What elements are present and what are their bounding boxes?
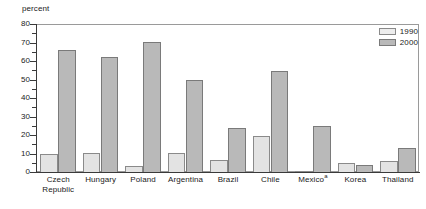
legend-label-2000: 2000 xyxy=(400,39,418,47)
bar-2000 xyxy=(58,50,76,172)
y-tick-label: 30 xyxy=(2,113,30,121)
x-axis-label: Hungary xyxy=(79,175,121,185)
y-axis-ticks: 01020304050607080 xyxy=(0,0,30,209)
bar-chart: percent 01020304050607080 CzechRepublicH… xyxy=(0,0,426,209)
bar-2000 xyxy=(186,80,204,172)
y-tick-label: 10 xyxy=(2,150,30,158)
x-axis-label: Poland xyxy=(122,175,164,185)
y-tick-major xyxy=(30,24,36,25)
bar-1990 xyxy=(210,160,228,172)
y-tick-major xyxy=(30,135,36,136)
x-axis-label: Argentina xyxy=(164,175,206,185)
bar-1990 xyxy=(295,171,313,172)
y-tick-minor xyxy=(32,52,36,53)
bar-2000 xyxy=(271,71,289,172)
bar-1990 xyxy=(83,153,101,172)
bar-2000 xyxy=(398,148,416,172)
bar-2000 xyxy=(356,165,374,172)
y-tick-minor xyxy=(32,126,36,127)
bar-group xyxy=(334,24,376,172)
bar-group xyxy=(164,24,206,172)
bar-1990 xyxy=(338,163,356,172)
light-gray-swatch-icon xyxy=(379,28,396,35)
y-tick-label: 0 xyxy=(2,168,30,176)
y-tick-minor xyxy=(32,70,36,71)
bar-2000 xyxy=(101,57,119,172)
bar-group xyxy=(292,24,334,172)
x-axis-label: Brazil xyxy=(207,175,249,185)
bar-group xyxy=(37,24,79,172)
y-tick-label: 70 xyxy=(2,39,30,47)
footnote-marker: a xyxy=(324,173,327,179)
bar-2000 xyxy=(313,126,331,172)
y-tick-label: 80 xyxy=(2,20,30,28)
bar-1990 xyxy=(168,153,186,172)
bar-2000 xyxy=(228,128,246,172)
bar-group xyxy=(207,24,249,172)
bar-group xyxy=(122,24,164,172)
y-tick-label: 60 xyxy=(2,57,30,65)
x-axis-label: Korea xyxy=(334,175,376,185)
bar-1990 xyxy=(253,136,271,172)
x-axis-label: Mexicoa xyxy=(292,175,334,185)
legend-item-2000: 2000 xyxy=(379,38,418,47)
y-tick-minor xyxy=(32,107,36,108)
legend-item-1990: 1990 xyxy=(379,27,418,36)
bar-series-layer xyxy=(37,24,419,172)
y-tick-major xyxy=(30,117,36,118)
y-tick-major xyxy=(30,98,36,99)
y-tick-minor xyxy=(32,33,36,34)
bar-1990 xyxy=(380,161,398,172)
bar-group xyxy=(249,24,291,172)
y-tick-label: 20 xyxy=(2,131,30,139)
y-tick-minor xyxy=(32,163,36,164)
dark-gray-swatch-icon xyxy=(379,39,396,46)
y-tick-major xyxy=(30,80,36,81)
y-tick-minor xyxy=(32,144,36,145)
y-tick-major xyxy=(30,61,36,62)
y-tick-major xyxy=(30,43,36,44)
x-axis-label: Thailand xyxy=(377,175,419,185)
x-axis-label: Chile xyxy=(249,175,291,185)
x-axis-labels: CzechRepublicHungaryPolandArgentinaBrazi… xyxy=(37,175,419,207)
x-axis-line xyxy=(36,172,420,173)
y-tick-minor xyxy=(32,89,36,90)
bar-2000 xyxy=(143,42,161,172)
legend-label-1990: 1990 xyxy=(400,28,418,36)
bar-group xyxy=(79,24,121,172)
bar-1990 xyxy=(40,154,58,173)
y-tick-major xyxy=(30,154,36,155)
x-axis-label: CzechRepublic xyxy=(37,175,79,194)
bar-1990 xyxy=(125,166,143,172)
chart-legend: 1990 2000 xyxy=(379,27,418,47)
y-tick-label: 40 xyxy=(2,94,30,102)
y-tick-label: 50 xyxy=(2,76,30,84)
y-tick-major xyxy=(30,172,36,173)
